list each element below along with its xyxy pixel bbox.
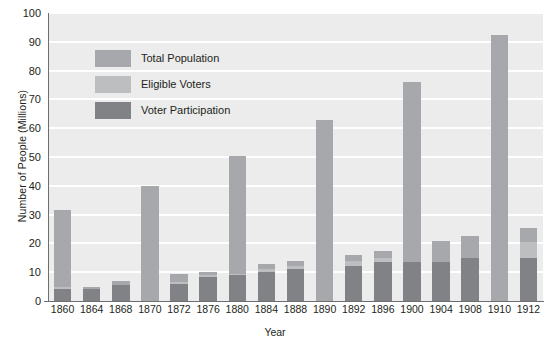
x-tick-label: 1890	[313, 303, 336, 315]
x-tick-label: 1908	[459, 303, 482, 315]
x-tick-label: 1864	[80, 303, 103, 315]
x-axis-title: Year	[0, 326, 550, 338]
bar-column	[520, 228, 537, 301]
bar-segment-voter-participation	[199, 277, 216, 301]
bar-column	[141, 186, 158, 301]
bar-segment-voter-participation	[461, 258, 478, 301]
chart-figure: Number of People (Millions) 010203040506…	[0, 0, 550, 346]
bar-column	[461, 236, 478, 301]
bar-segment-total-population	[374, 251, 391, 258]
bar-column	[229, 156, 246, 301]
legend-swatch-icon	[95, 102, 131, 119]
y-tick-label: 30	[29, 209, 41, 220]
bar-segment-voter-participation	[170, 284, 187, 301]
bar-column	[491, 35, 508, 301]
bar-segment-total-population	[54, 210, 71, 286]
bar-column	[374, 251, 391, 301]
bar-segment-voter-participation	[287, 269, 304, 301]
x-axis-line	[44, 301, 544, 302]
bar-segment-total-population	[461, 236, 478, 258]
bar-segment-voter-participation	[54, 289, 71, 301]
x-tick-label: 1910	[488, 303, 511, 315]
bar-segment-voter-participation	[345, 266, 362, 301]
bar-segment-voter-participation	[83, 289, 100, 301]
y-tick-label: 10	[29, 267, 41, 278]
x-tick-label: 1880	[226, 303, 249, 315]
y-tick-label: 90	[29, 36, 41, 47]
bar-segment-total-population	[316, 120, 333, 301]
x-tick-label: 1872	[167, 303, 190, 315]
y-axis-tick-labels: 0102030405060708090100	[0, 0, 46, 346]
x-tick-label: 1876	[196, 303, 219, 315]
bar-segment-voter-participation	[403, 262, 420, 301]
legend-item: Voter Participation	[95, 102, 230, 119]
legend-label: Voter Participation	[141, 105, 230, 116]
y-tick-label: 40	[29, 180, 41, 191]
bar-segment-voter-participation	[374, 262, 391, 301]
x-axis-tick-labels: 1860186418681870187218761880188418881890…	[48, 303, 543, 323]
y-tick-label: 70	[29, 94, 41, 105]
x-tick-label: 1904	[429, 303, 452, 315]
legend: Total PopulationEligible VotersVoter Par…	[95, 50, 230, 119]
y-axis-line	[48, 13, 49, 302]
y-tick-label: 20	[29, 238, 41, 249]
bar-column	[345, 255, 362, 301]
bar-column	[83, 287, 100, 301]
bar-segment-total-population	[141, 186, 158, 301]
x-tick-label: 1870	[138, 303, 161, 315]
x-tick-label: 1896	[371, 303, 394, 315]
legend-label: Eligible Voters	[141, 79, 211, 90]
bar-segment-voter-participation	[432, 262, 449, 301]
bar-column	[258, 264, 275, 301]
bar-segment-total-population	[520, 228, 537, 242]
bar-column	[199, 272, 216, 301]
bar-segment-total-population	[432, 241, 449, 263]
x-tick-label: 1912	[517, 303, 540, 315]
y-tick-label: 100	[23, 8, 41, 19]
bar-column	[403, 82, 420, 301]
bar-segment-eligible-voters	[520, 242, 537, 258]
bar-segment-voter-participation	[520, 258, 537, 301]
bar-segment-voter-participation	[258, 272, 275, 301]
bar-column	[432, 241, 449, 301]
bar-segment-total-population	[491, 35, 508, 301]
legend-label: Total Population	[141, 53, 219, 64]
bar-column	[287, 261, 304, 301]
legend-item: Total Population	[95, 50, 230, 67]
legend-item: Eligible Voters	[95, 76, 230, 93]
y-tick-label: 0	[35, 296, 41, 307]
bar-segment-total-population	[170, 274, 187, 283]
x-tick-label: 1860	[51, 303, 74, 315]
x-tick-label: 1888	[284, 303, 307, 315]
x-tick-label: 1884	[255, 303, 278, 315]
bar-column	[54, 210, 71, 301]
x-tick-label: 1868	[109, 303, 132, 315]
legend-swatch-icon	[95, 50, 131, 67]
y-tick-label: 60	[29, 123, 41, 134]
bar-column	[316, 120, 333, 301]
x-tick-label: 1892	[342, 303, 365, 315]
bar-segment-voter-participation	[112, 285, 129, 301]
bar-column	[170, 274, 187, 301]
bar-segment-total-population	[403, 82, 420, 262]
x-tick-label: 1900	[400, 303, 423, 315]
y-tick-label: 80	[29, 65, 41, 76]
y-tick-label: 50	[29, 152, 41, 163]
legend-swatch-icon	[95, 76, 131, 93]
bar-segment-total-population	[229, 156, 246, 274]
bar-column	[112, 281, 129, 301]
bar-segment-voter-participation	[229, 275, 246, 301]
